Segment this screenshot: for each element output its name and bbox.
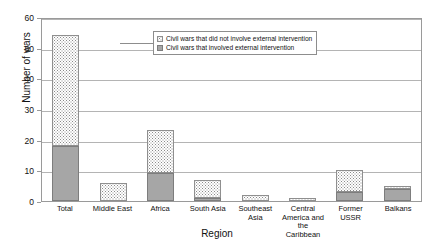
chart-container: Number of wars 0102030405060 TotalMiddle… xyxy=(0,0,434,252)
bar-stack[interactable] xyxy=(194,180,221,201)
y-axis-tick-label: 40 xyxy=(9,74,34,84)
y-axis-tick-mark xyxy=(37,79,41,80)
bar-segment-no-intervention[interactable] xyxy=(242,195,269,201)
y-axis-tick-label: 30 xyxy=(9,105,34,115)
bar-column[interactable] xyxy=(89,19,136,201)
legend-swatch-dotted-icon xyxy=(157,36,163,42)
bar-segment-no-intervention[interactable] xyxy=(52,35,79,145)
bar-stack[interactable] xyxy=(147,130,174,201)
y-axis-tick-label: 0 xyxy=(9,197,34,207)
legend-entry-with-intervention: Civil wars that involved external interv… xyxy=(157,43,312,52)
bar-stack[interactable] xyxy=(100,183,127,201)
bar-segment-with-intervention[interactable] xyxy=(147,173,174,201)
bar-column[interactable] xyxy=(374,19,421,201)
y-axis-tick-label: 10 xyxy=(9,166,34,176)
x-axis-title: Region xyxy=(0,228,434,239)
bar-segment-with-intervention[interactable] xyxy=(336,192,363,201)
y-axis-tick-mark xyxy=(37,49,41,50)
bar-stack[interactable] xyxy=(336,170,363,201)
bar-column[interactable] xyxy=(42,19,89,201)
bar-stack[interactable] xyxy=(242,195,269,201)
legend-label-no-intervention: Civil wars that did not involve external… xyxy=(166,35,312,42)
y-axis-tick-mark xyxy=(37,110,41,111)
y-axis-tick-mark xyxy=(37,202,41,203)
bar-stack[interactable] xyxy=(384,186,411,201)
bar-stack[interactable] xyxy=(289,198,316,201)
bar-segment-with-intervention[interactable] xyxy=(384,189,411,201)
y-axis-tick-mark xyxy=(37,18,41,19)
legend-label-with-intervention: Civil wars that involved external interv… xyxy=(166,44,294,51)
bar-segment-no-intervention[interactable] xyxy=(194,180,221,198)
y-axis-tick-mark xyxy=(37,171,41,172)
bar-segment-with-intervention[interactable] xyxy=(52,146,79,201)
legend-leader-line xyxy=(120,43,154,44)
legend: Civil wars that did not involve external… xyxy=(153,31,317,55)
legend-swatch-solid-icon xyxy=(157,45,163,51)
bar-segment-no-intervention[interactable] xyxy=(289,198,316,201)
bar-segment-with-intervention[interactable] xyxy=(194,198,221,201)
bar-column[interactable] xyxy=(326,19,373,201)
y-axis-tick-mark xyxy=(37,141,41,142)
bar-segment-no-intervention[interactable] xyxy=(336,170,363,191)
y-axis-tick-label: 20 xyxy=(9,136,34,146)
bar-segment-no-intervention[interactable] xyxy=(147,130,174,173)
y-axis-tick-label: 50 xyxy=(9,44,34,54)
bar-stack[interactable] xyxy=(52,35,79,201)
bar-segment-no-intervention[interactable] xyxy=(100,183,127,201)
y-axis-tick-label: 60 xyxy=(9,13,34,23)
legend-entry-no-intervention: Civil wars that did not involve external… xyxy=(157,34,312,43)
